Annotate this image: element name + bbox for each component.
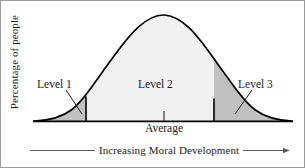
moral-development-distribution-figure: Percentage of people Level 1 Level 2 Lev… xyxy=(0,0,305,168)
average-label: Average xyxy=(141,122,187,134)
x-axis-label: Increasing Moral Development xyxy=(95,144,243,156)
level-3-label: Level 3 xyxy=(238,78,273,90)
level-2-label: Level 2 xyxy=(138,78,173,90)
level-1-label: Level 1 xyxy=(37,78,72,90)
y-axis-label: Percentage of people xyxy=(8,0,20,124)
distribution-body-area xyxy=(34,15,292,121)
